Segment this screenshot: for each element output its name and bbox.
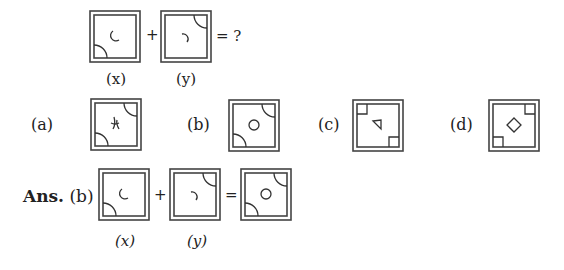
figure-y — [160, 10, 212, 63]
option-d-label: (d) — [450, 115, 473, 135]
figure-y-drawing — [160, 10, 212, 63]
option-a-label: (a) — [31, 115, 53, 135]
option-c-figure — [352, 99, 404, 152]
answer-heading: Ans. (b) — [23, 186, 94, 206]
equals-question: = ? — [216, 27, 241, 45]
answer-plus-operator: + — [154, 186, 167, 204]
quarter-arc-top-right-icon — [194, 15, 207, 28]
diamond-icon — [507, 118, 521, 132]
figure-x-drawing — [89, 10, 141, 63]
option-b-figure — [228, 99, 280, 152]
arc-open-right-icon — [111, 31, 119, 41]
plus-operator: + — [146, 26, 159, 44]
answer-figure-y — [169, 168, 221, 221]
square-bottom-left-icon — [493, 137, 503, 147]
option-a-figure — [90, 98, 142, 151]
option-d-figure — [488, 99, 540, 152]
answer-figure-x — [98, 168, 150, 221]
arc-open-left-icon — [182, 34, 188, 42]
answer-result-figure — [240, 168, 292, 221]
option-b-label: (b) — [187, 115, 210, 135]
answer-prefix: Ans. — [23, 186, 64, 206]
option-c-label: (c) — [318, 115, 339, 135]
label-x: (x) — [106, 70, 126, 88]
answer-label-y: (y) — [187, 232, 207, 250]
triangle-icon — [373, 120, 381, 129]
label-y: (y) — [176, 70, 196, 88]
figure-x — [89, 10, 141, 63]
cross-curves-icon — [111, 117, 119, 129]
answer-choice: (b) — [69, 186, 93, 206]
quarter-arc-bottom-left-icon — [94, 45, 107, 58]
answer-equals-operator: = — [225, 186, 238, 204]
square-top-left-icon — [357, 104, 367, 114]
square-bottom-right-icon — [389, 137, 399, 147]
square-top-right-icon — [525, 104, 535, 114]
circle-icon — [249, 120, 259, 130]
answer-label-x: (x) — [115, 232, 135, 250]
